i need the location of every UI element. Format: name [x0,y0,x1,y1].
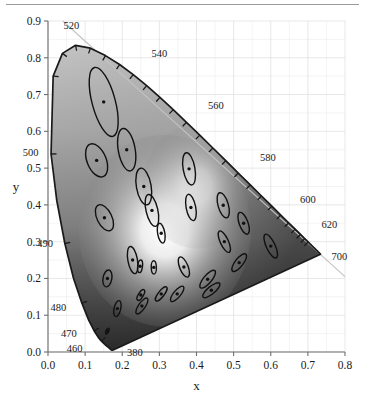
x-tick-label: 0.5 [226,359,241,371]
ellipse-center-dot [140,304,143,307]
wavelength-label-580: 580 [260,152,276,163]
x-tick-label: 0.1 [78,359,93,371]
ellipse-center-dot [103,216,106,219]
ellipse-center-dot [187,167,190,170]
ellipse-center-dot [242,222,245,225]
wavelength-label-540: 540 [152,48,168,59]
wavelength-label-520: 520 [64,20,80,31]
x-tick-label: 0.7 [301,359,316,371]
wavelength-label-470: 470 [61,328,77,339]
ellipse-center-dot [138,265,141,268]
ellipse-center-dot [223,240,226,243]
ellipse-center-dot [95,159,98,162]
ellipse-center-dot [102,100,105,103]
x-tick-label: 0.4 [189,359,204,371]
ellipse-center-dot [182,265,185,268]
y-axis-title: y [13,179,20,194]
wavelength-label-700: 700 [332,251,348,262]
secondary-glow [143,125,251,249]
x-tick-label: 0.0 [41,359,56,371]
ellipse-center-dot [160,292,163,295]
x-tick-label: 0.2 [115,359,130,371]
ellipse-center-dot [269,244,272,247]
y-tick-label: 0.7 [27,89,42,101]
x-axis-title: x [193,378,200,393]
wavelength-label-480: 480 [51,302,67,313]
y-tick-label: 0.9 [27,15,42,27]
y-tick-label: 0.2 [27,272,42,284]
ellipse-center-dot [116,307,119,310]
ellipse-center-dot [125,148,128,151]
wavelength-label-500: 500 [23,147,39,158]
ellipse-center-dot [160,232,163,235]
wavelength-tick [53,76,58,77]
ellipse-center-dot [150,209,153,212]
cie-chromaticity-chart: 0.00.10.20.30.40.50.60.70.80.00.10.20.30… [0,0,365,407]
ellipse-center-dot [222,204,225,207]
wavelength-label-460: 460 [67,343,83,354]
ellipse-center-dot [139,293,142,296]
ellipse-center-dot [175,292,178,295]
ellipse-center-dot [210,289,213,292]
ellipse-center-dot [131,258,134,261]
wavelength-label-490: 490 [37,238,53,249]
y-tick-label: 0.5 [27,162,42,174]
figure-page: 0.00.10.20.30.40.50.60.70.80.00.10.20.30… [0,0,365,407]
ellipse-center-dot [106,277,109,280]
x-tick-label: 0.8 [338,359,353,371]
wavelength-label-380: 380 [127,347,143,358]
wavelength-label-600: 600 [300,194,316,205]
wavelength-label-560: 560 [208,100,224,111]
ellipse-center-dot [152,266,155,269]
y-tick-label: 0.6 [27,125,42,137]
ellipse-center-dot [142,185,145,188]
x-tick-label: 0.6 [264,359,279,371]
ellipse-center-dot [189,206,192,209]
y-tick-label: 0.8 [27,52,42,64]
ellipse-center-dot [206,277,209,280]
y-tick-label: 0.4 [27,199,42,211]
y-tick-label: 0.1 [27,309,42,321]
ellipse-center-dot [106,329,109,332]
ellipse-center-dot [237,261,240,264]
x-tick-label: 0.3 [152,359,167,371]
y-tick-label: 0.0 [27,346,42,358]
wavelength-label-620: 620 [322,219,338,230]
